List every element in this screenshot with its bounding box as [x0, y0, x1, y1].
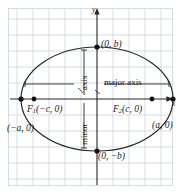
- label-vertex-right: (a, 0): [152, 121, 173, 131]
- point-vertex-left: [18, 96, 23, 101]
- ellipse-graph-canvas: [0, 0, 181, 193]
- focus-right-coords: (c, 0): [122, 104, 142, 114]
- y-axis-label: y: [92, 6, 95, 14]
- label-covertex-top: (0, b): [101, 40, 122, 50]
- point-covertex-top: [94, 44, 99, 49]
- label-minor-axis-word2: axis: [80, 76, 89, 91]
- label-major-axis: major axis: [104, 78, 142, 87]
- focus-left-coords: (−c, 0): [36, 104, 62, 114]
- label-focus-right: F2(c, 0): [113, 105, 142, 115]
- label-covertex-bottom: (0, −b): [98, 152, 125, 162]
- label-minor-axis-word1: minor: [80, 124, 89, 146]
- x-axis-label: x: [172, 100, 175, 108]
- point-focus-left: [32, 97, 37, 102]
- label-vertex-left: (−a, 0): [7, 124, 34, 134]
- point-focus-right: [150, 97, 155, 102]
- ellipse-figure: y x (0, b) (0, −b) (−a, 0) (a, 0) F1(−c,…: [0, 0, 181, 193]
- label-focus-left: F1(−c, 0): [27, 105, 63, 115]
